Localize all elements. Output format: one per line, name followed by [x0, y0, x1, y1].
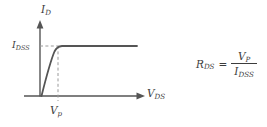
y-axis-label-sub: D [45, 8, 51, 17]
y-axis-arrowhead [37, 20, 44, 29]
formula-numerator: VP [235, 50, 253, 63]
formula-equals-sign: = [219, 58, 228, 70]
formula-denominator-sub: DSS [238, 70, 253, 79]
y-axis-label: ID [41, 4, 51, 15]
x-axis-label-main: V [147, 87, 155, 99]
vp-marker-label: Vp [50, 105, 62, 116]
idss-marker-label: IDSS [12, 40, 30, 50]
formula-numerator-sub: P [245, 55, 250, 64]
formula-lhs-main: R [196, 58, 204, 70]
x-axis-arrowhead [137, 93, 146, 100]
formula-fraction: VP IDSS [231, 50, 257, 77]
idss-marker-sub: DSS [16, 44, 30, 52]
drain-characteristic-curve [42, 46, 138, 96]
rds-formula: RDS = VP IDSS [196, 50, 257, 77]
vp-marker-main: V [50, 104, 58, 116]
formula-lhs-sub: DS [204, 62, 215, 71]
x-axis-label: VDS [147, 88, 165, 99]
vp-marker-sub: p [58, 109, 63, 118]
formula-lhs: RDS [196, 58, 215, 70]
x-axis-label-sub: DS [155, 92, 166, 101]
formula-denominator: IDSS [231, 63, 257, 77]
jfet-drain-characteristic-figure: ID IDSS VDS Vp RDS = VP IDSS [0, 0, 267, 127]
